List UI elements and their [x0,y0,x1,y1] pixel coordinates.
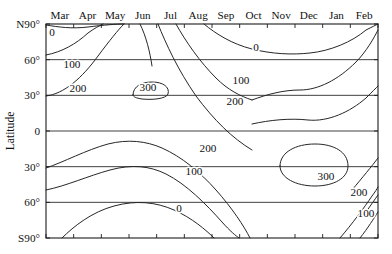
latitude-label--30: 30° [24,161,40,173]
contour-label-200-11: 200 [351,186,368,198]
contour-label-100-5: 100 [233,74,250,86]
latitude-label-30: 30° [24,89,40,101]
month-axis-labels: MarAprMayJunJulAugSepOctNovDecJanFeb [51,9,373,21]
contour-label-0-0: 0 [49,26,55,38]
contour-label-100-12: 100 [358,207,375,219]
contour-label-100-8: 100 [186,165,203,177]
latitude-axis-labels: N90°60°30°030°60°S90° [16,18,40,244]
latitude-label-60: 60° [24,54,40,66]
month-label-feb: Feb [356,9,373,21]
contour-label-200-7: 200 [200,142,217,154]
latitude-label-0: 0 [34,125,40,137]
insolation-contour-figure: 0010010020020030030000100100200200200200… [0,0,392,254]
month-label-oct: Oct [245,9,262,21]
contour-label-200-6: 200 [227,95,244,107]
contour-label-300-3: 300 [140,81,157,93]
month-label-jul: Jul [164,9,177,21]
contour-label-0-10: 0 [176,202,182,214]
month-label-aug: Aug [189,9,209,21]
latitude-label--60: 60° [24,196,40,208]
month-label-sep: Sep [217,9,234,21]
contour-label-0-4: 0 [253,41,259,53]
latitude-label-90: N90° [16,18,40,30]
month-label-nov: Nov [272,9,292,21]
contour-label-300-9: 300 [318,170,335,182]
latitude-label--90: S90° [18,232,40,244]
month-label-may: May [105,9,126,21]
contour-label-100-1: 100 [64,58,81,70]
month-label-jun: Jun [135,9,151,21]
month-label-mar: Mar [51,9,70,21]
contour-label-200-2: 200 [70,82,87,94]
contour-plot-canvas: 0010010020020030030000100100200200200200… [0,0,392,254]
month-label-apr: Apr [79,9,97,21]
y-axis-title: Latitude [4,112,17,151]
month-label-jan: Jan [329,9,344,21]
month-label-dec: Dec [300,9,318,21]
